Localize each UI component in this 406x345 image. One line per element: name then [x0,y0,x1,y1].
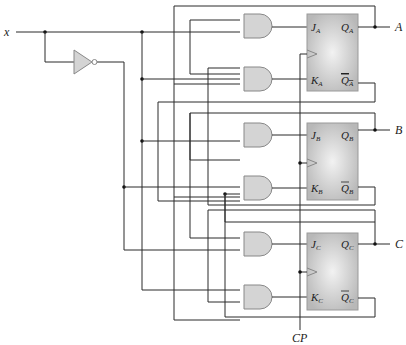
and-gate-kc [244,285,307,309]
and-gate-ja [244,14,307,38]
output-a-label: A [394,20,403,34]
and-gate-ka [244,67,307,91]
clock-label: CP [292,331,308,345]
input-x-label: x [3,25,10,39]
not-gate [74,50,97,74]
clock-wire [298,54,307,330]
output-c-label: C [395,237,404,251]
output-b-label: B [395,123,403,137]
circuit-diagram: x CP A B C JA KA QA QA JB KB QB QB JC KC… [0,0,406,345]
and-gate-jb [244,123,307,147]
and-gate-jc [244,232,307,256]
output-wires [358,25,390,298]
and-gate-kb [244,176,307,200]
